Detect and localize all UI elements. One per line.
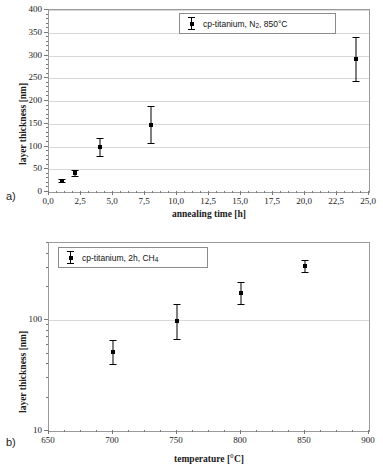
y-minor-tick: [46, 73, 48, 74]
y-minor-tick: [46, 45, 48, 46]
panel-b-ylabel: layer thickness [nm]: [18, 331, 28, 413]
figure-container: a) layer thickness [nm] 0,02,55,07,510,0…: [0, 0, 383, 473]
y-minor-tick: [46, 177, 48, 178]
x-minor-tick: [288, 191, 289, 193]
x-minor-tick: [328, 191, 329, 193]
x-minor-tick: [240, 191, 241, 193]
y-minor-tick: [46, 146, 48, 147]
y-minor-tick: [46, 14, 48, 15]
x-tick-label: 2,5: [74, 196, 85, 206]
y-minor-tick: [46, 77, 48, 78]
y-tick-label: 0: [22, 186, 42, 196]
error-bar-cap: [353, 37, 360, 38]
x-minor-tick: [320, 430, 321, 432]
x-minor-tick: [344, 191, 345, 193]
gridline: [49, 320, 369, 321]
x-minor-tick: [56, 191, 57, 193]
x-minor-tick: [128, 191, 129, 193]
y-minor-tick: [46, 141, 48, 142]
y-minor-tick: [46, 100, 48, 101]
x-tick-label: 10,0: [168, 196, 184, 206]
x-minor-tick: [144, 191, 145, 193]
x-tick-label: 850: [297, 435, 311, 445]
y-tick-label: 250: [22, 72, 42, 82]
data-point: [239, 291, 243, 295]
x-minor-tick: [64, 430, 65, 432]
x-minor-tick: [176, 191, 177, 193]
y-minor-tick: [46, 253, 48, 254]
x-minor-tick: [224, 430, 225, 432]
y-minor-tick: [46, 109, 48, 110]
x-minor-tick: [72, 191, 73, 193]
y-minor-tick: [46, 132, 48, 133]
x-minor-tick: [48, 191, 49, 193]
x-minor-tick: [280, 191, 281, 193]
y-minor-tick: [46, 64, 48, 65]
y-minor-tick: [46, 105, 48, 106]
y-minor-tick: [46, 397, 48, 398]
x-tick-label: 0,0: [42, 196, 53, 206]
x-tick-label: 900: [361, 435, 375, 445]
panel-a-plot-area: [48, 9, 370, 193]
x-minor-tick: [368, 430, 369, 432]
x-minor-tick: [136, 191, 137, 193]
y-minor-tick: [46, 286, 48, 287]
x-minor-tick: [224, 191, 225, 193]
x-tick-label: 750: [169, 435, 183, 445]
y-minor-tick: [46, 41, 48, 42]
x-minor-tick: [352, 191, 353, 193]
gridline: [49, 78, 369, 79]
y-minor-tick: [46, 182, 48, 183]
panel-a-legend: cp-titanium, N2, 850°C: [179, 13, 336, 34]
x-tick-label: 15,0: [232, 196, 248, 206]
data-point: [73, 171, 77, 175]
x-minor-tick: [168, 191, 169, 193]
x-minor-tick: [208, 430, 209, 432]
error-bar-cap: [238, 282, 245, 283]
y-minor-tick: [46, 82, 48, 83]
x-minor-tick: [264, 191, 265, 193]
y-minor-tick: [46, 242, 48, 243]
error-bar-cap: [148, 143, 155, 144]
gridline: [49, 10, 369, 11]
x-minor-tick: [200, 191, 201, 193]
y-tick-label: 200: [22, 95, 42, 105]
x-tick-label: 800: [233, 435, 247, 445]
gridline: [49, 101, 369, 102]
x-tick-label: 20,0: [296, 196, 312, 206]
x-minor-tick: [248, 191, 249, 193]
y-minor-tick: [46, 114, 48, 115]
panel-a-legend-label: cp-titanium, N2, 850°C: [203, 19, 288, 29]
y-tick-label: 50: [22, 163, 42, 173]
y-minor-tick: [46, 173, 48, 174]
x-minor-tick: [288, 430, 289, 432]
x-minor-tick: [272, 191, 273, 193]
panel-b-xlabel: temperature [°C]: [48, 454, 370, 464]
y-minor-tick: [46, 118, 48, 119]
y-minor-tick: [46, 123, 48, 124]
x-minor-tick: [256, 430, 257, 432]
y-tick-label: 300: [22, 50, 42, 60]
y-tick: [44, 319, 48, 320]
error-bar-cap: [302, 260, 309, 261]
data-point: [98, 145, 102, 149]
y-tick-label: 350: [22, 27, 42, 37]
legend-marker-icon: [66, 251, 75, 264]
x-minor-tick: [104, 191, 105, 193]
y-tick-label: 150: [22, 118, 42, 128]
x-tick-label: 5,0: [106, 196, 117, 206]
x-minor-tick: [160, 191, 161, 193]
error-bar-cap: [174, 339, 181, 340]
x-minor-tick: [360, 191, 361, 193]
y-minor-tick: [46, 330, 48, 331]
x-minor-tick: [112, 430, 113, 432]
x-minor-tick: [368, 191, 369, 193]
y-minor-tick: [46, 191, 48, 192]
y-minor-tick: [46, 59, 48, 60]
x-minor-tick: [304, 430, 305, 432]
y-minor-tick: [46, 136, 48, 137]
x-minor-tick: [320, 191, 321, 193]
error-bar-cap: [110, 364, 117, 365]
y-minor-tick: [46, 164, 48, 165]
error-bar-cap: [238, 304, 245, 305]
